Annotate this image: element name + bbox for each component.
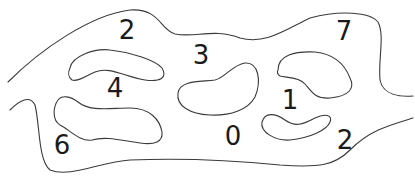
number-label-0: 0 — [225, 123, 242, 149]
number-label-2-bottom: 2 — [337, 127, 354, 153]
number-label-3: 3 — [193, 42, 210, 68]
number-label-4: 4 — [107, 75, 124, 101]
number-label-1: 1 — [282, 87, 299, 113]
blob-center — [178, 63, 259, 115]
number-label-7: 7 — [336, 18, 353, 44]
puzzle-canvas: 2 3 7 4 1 6 0 2 — [0, 0, 415, 180]
blob-lower-right — [262, 115, 331, 140]
number-label-2-top: 2 — [119, 17, 136, 43]
number-label-6: 6 — [54, 132, 71, 158]
blob-lower-left — [54, 97, 162, 144]
